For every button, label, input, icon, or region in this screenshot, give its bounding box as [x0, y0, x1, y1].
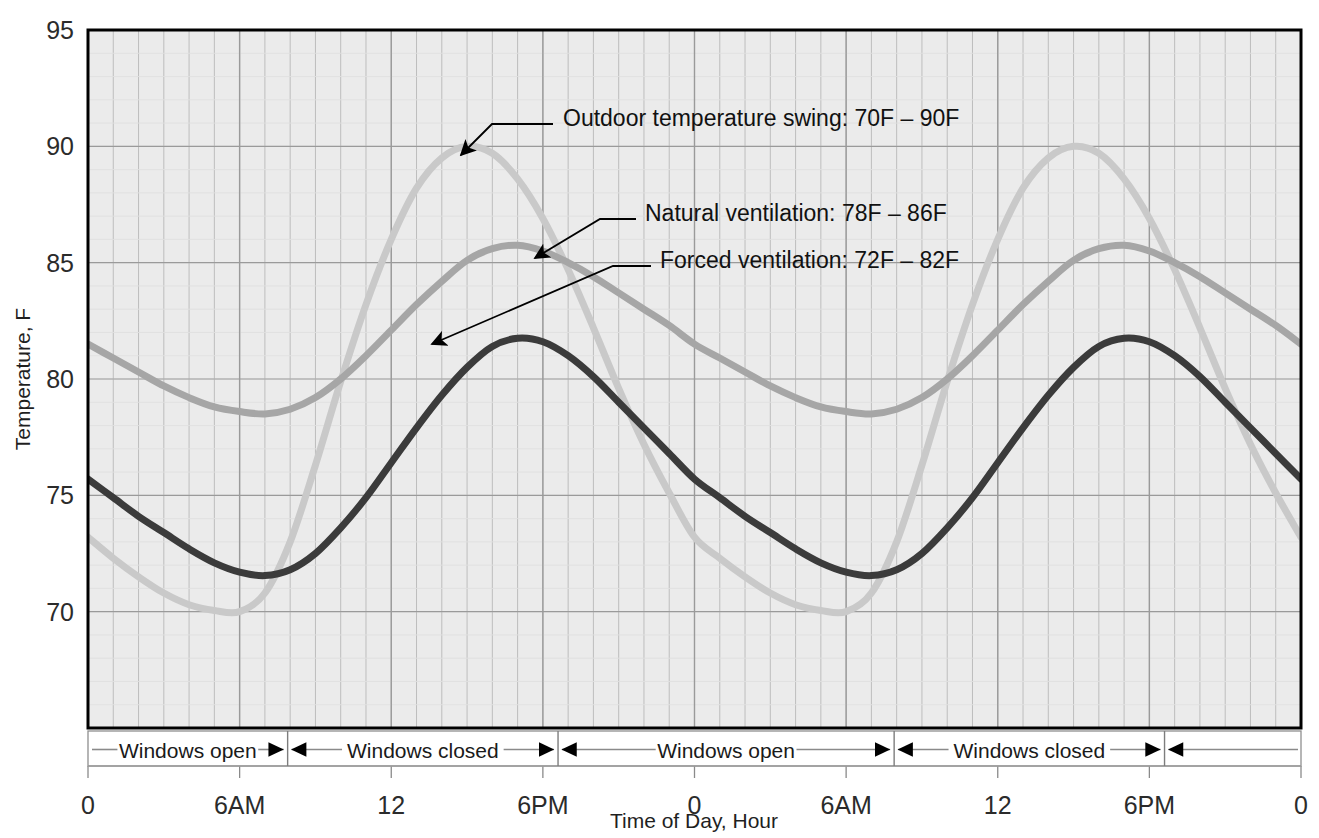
window-state-band-group: Windows openWindows closedWindows openWi…: [88, 731, 1301, 766]
band-label: Windows closed: [953, 739, 1105, 762]
y-tick-label: 85: [46, 249, 74, 277]
x-tick-label: 0: [81, 791, 95, 819]
band-label: Windows closed: [347, 739, 499, 762]
y-tick-label: 75: [46, 481, 74, 509]
y-tick-label: 95: [46, 16, 74, 44]
x-tick-label: 12: [377, 791, 405, 819]
chart-figure: 707580859095 06AM126PM06AM126PM0 Tempera…: [0, 0, 1319, 838]
band-label: Windows open: [657, 739, 795, 762]
x-tick-label: 6PM: [517, 791, 568, 819]
x-tick-label: 6AM: [820, 791, 871, 819]
x-tick-label: 6PM: [1124, 791, 1175, 819]
y-tick-label: 90: [46, 132, 74, 160]
x-tick-label: 6AM: [214, 791, 265, 819]
band-label: Windows open: [119, 739, 257, 762]
y-tick-label: 70: [46, 598, 74, 626]
y-axis-title: Temperature, F: [11, 308, 34, 450]
annotation-label: Forced ventilation: 72F – 82F: [660, 247, 959, 273]
x-axis-title: Time of Day, Hour: [610, 809, 778, 832]
y-tick-label: 80: [46, 365, 74, 393]
x-tick-label: 0: [1294, 791, 1308, 819]
annotation-label: Outdoor temperature swing: 70F – 90F: [563, 105, 959, 131]
x-tick-label: 12: [984, 791, 1012, 819]
annotation-label: Natural ventilation: 78F – 86F: [645, 200, 947, 226]
temperature-line-chart: 707580859095 06AM126PM06AM126PM0 Tempera…: [0, 0, 1319, 838]
